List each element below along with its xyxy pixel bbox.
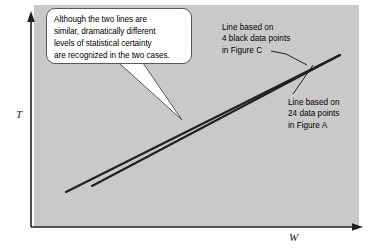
- y-axis: [27, 11, 35, 227]
- callout-bubble: Although the two lines are similar, dram…: [46, 8, 192, 64]
- callout-tail: [119, 63, 182, 120]
- statistics-figure: T W Although the two lines are similar, …: [0, 0, 378, 250]
- x-axis-label: W: [289, 231, 298, 243]
- annotation-line: 4 black data points: [222, 33, 290, 44]
- x-axis: [31, 223, 363, 231]
- callout-line: are recognized in the two cases.: [54, 50, 185, 62]
- callout-line: levels of statistical certainty: [54, 38, 185, 50]
- callout-line: Although the two lines are: [54, 14, 185, 26]
- callout-line: similar, dramatically different: [54, 26, 185, 38]
- y-axis-label: T: [16, 108, 22, 120]
- annotation-line: 24 data points: [288, 108, 339, 119]
- annotation-line: in Figure A: [288, 120, 339, 131]
- annotation-line: in Figure C: [222, 45, 290, 56]
- leader-line-24-points: [293, 65, 313, 94]
- annotation-line: Line based on: [222, 22, 290, 33]
- annotation-line: Line based on: [288, 97, 339, 108]
- annotation-black-data-points: Line based on 4 black data points in Fig…: [222, 22, 290, 56]
- annotation-24-data-points: Line based on 24 data points in Figure A: [288, 97, 339, 131]
